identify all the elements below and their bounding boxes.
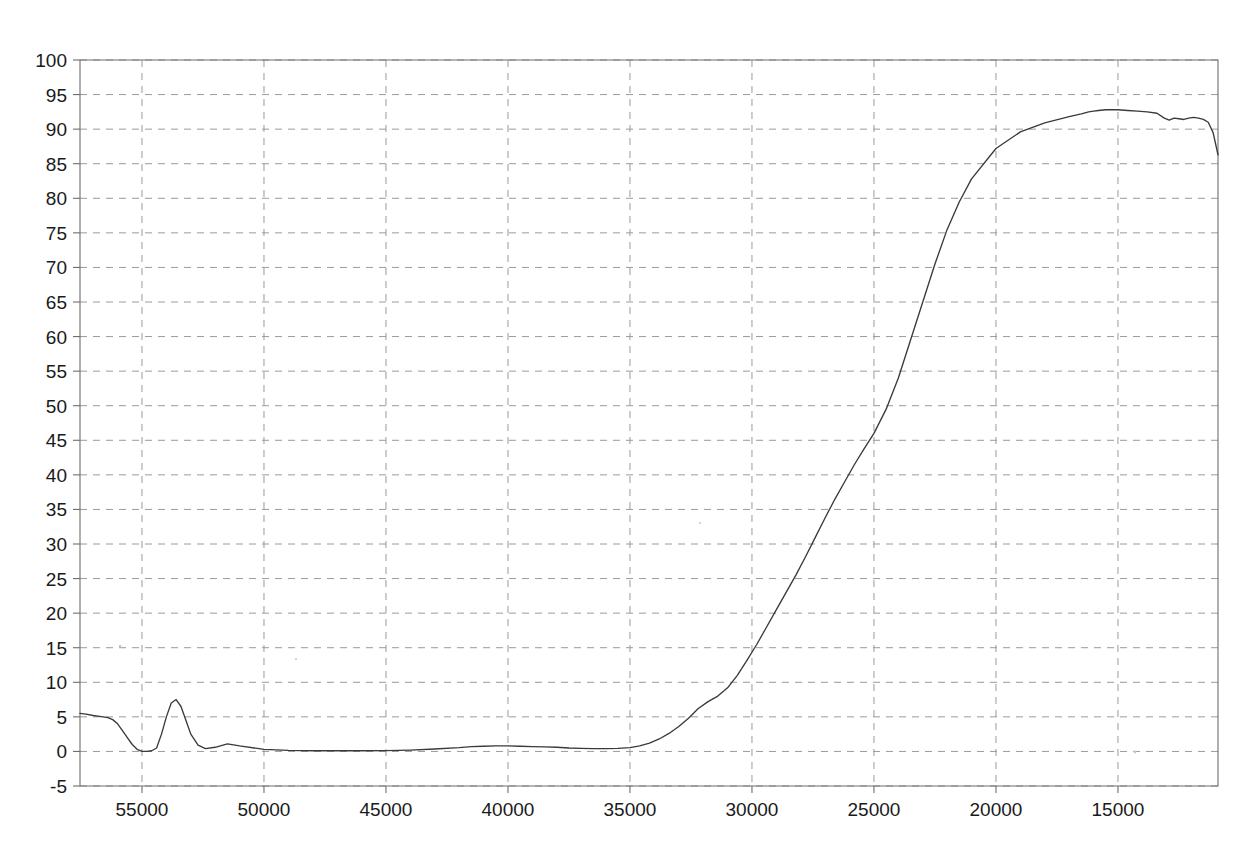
ytick-label: 5 (56, 707, 67, 728)
ytick-label: 30 (46, 534, 67, 555)
x-axis-ticks (142, 786, 1118, 793)
ytick-label: 15 (46, 638, 67, 659)
ytick-label: 95 (46, 85, 67, 106)
chart-container: 1009590858075706560555045403530252015105… (0, 0, 1258, 856)
xtick-label: 45000 (360, 799, 413, 820)
y-axis-tick-labels: 1009590858075706560555045403530252015105… (35, 50, 67, 797)
ytick-label: 85 (46, 154, 67, 175)
gridlines-horizontal (80, 60, 1218, 786)
spectrum-plot: 1009590858075706560555045403530252015105… (0, 0, 1258, 856)
scan-artifact (699, 522, 701, 524)
ytick-label: 60 (46, 327, 67, 348)
ytick-label: 55 (46, 361, 67, 382)
ytick-label: 35 (46, 499, 67, 520)
plot-frame (80, 60, 1218, 786)
xtick-label: 35000 (604, 799, 657, 820)
xtick-label: 40000 (482, 799, 535, 820)
y-axis-ticks (73, 60, 80, 786)
ytick-label: 10 (46, 672, 67, 693)
xtick-label: 20000 (970, 799, 1023, 820)
ytick-label: 20 (46, 603, 67, 624)
xtick-label: 50000 (238, 799, 291, 820)
scan-artifact (1134, 751, 1137, 754)
xtick-label: 15000 (1092, 799, 1145, 820)
scan-artifact (119, 645, 122, 648)
ytick-label: 65 (46, 292, 67, 313)
ytick-label: 80 (46, 188, 67, 209)
xtick-label: 30000 (726, 799, 779, 820)
x-axis-tick-labels: 5500050000450004000035000300002500020000… (116, 799, 1145, 820)
axis-frame (80, 60, 1218, 786)
ytick-label: 75 (46, 223, 67, 244)
specks (119, 522, 1137, 753)
ytick-label: 90 (46, 119, 67, 140)
ytick-label: 40 (46, 465, 67, 486)
xtick-label: 25000 (848, 799, 901, 820)
scan-artifact (295, 658, 297, 660)
ytick-label: 25 (46, 569, 67, 590)
ytick-label: 50 (46, 396, 67, 417)
ytick-label: 0 (56, 741, 67, 762)
ytick-label: -5 (50, 776, 67, 797)
ytick-label: 45 (46, 430, 67, 451)
ytick-label: 100 (35, 50, 67, 71)
gridlines-vertical (142, 60, 1118, 786)
curve-transmittance (80, 110, 1218, 752)
ytick-label: 70 (46, 257, 67, 278)
xtick-label: 55000 (116, 799, 169, 820)
data-series-transmittance (80, 110, 1218, 752)
